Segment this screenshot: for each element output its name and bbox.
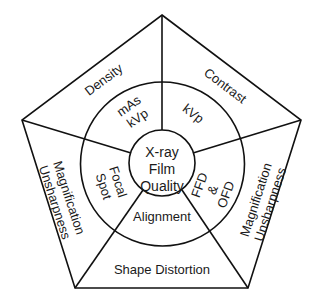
- svg-text:Film: Film: [149, 161, 175, 177]
- svg-text:kVp: kVp: [180, 101, 207, 127]
- svg-text:Density: Density: [82, 60, 126, 98]
- center-label: X-ray Film Quality: [140, 144, 184, 194]
- xray-film-quality-diagram: X-ray Film Quality mAs kVp kVp FFD & OFD…: [0, 0, 317, 299]
- outer-label-shape-distortion: Shape Distortion: [114, 262, 210, 277]
- inner-label-top-right: kVp: [180, 101, 207, 127]
- divider-right: [193, 120, 301, 153]
- inner-label-right: FFD & OFD: [188, 170, 238, 211]
- svg-text:Contrast: Contrast: [201, 65, 250, 107]
- svg-text:Shape Distortion: Shape Distortion: [114, 262, 210, 277]
- inner-label-left: Focal Spot: [92, 164, 130, 204]
- divider-left: [22, 120, 131, 153]
- inner-label-top-left: mAs kVp: [114, 92, 153, 132]
- outer-label-density: Density: [82, 60, 126, 98]
- svg-text:Alignment: Alignment: [133, 209, 191, 224]
- inner-label-bottom: Alignment: [133, 209, 191, 224]
- svg-text:Quality: Quality: [140, 178, 184, 194]
- outer-label-contrast: Contrast: [201, 65, 250, 107]
- svg-text:X-ray: X-ray: [145, 144, 178, 160]
